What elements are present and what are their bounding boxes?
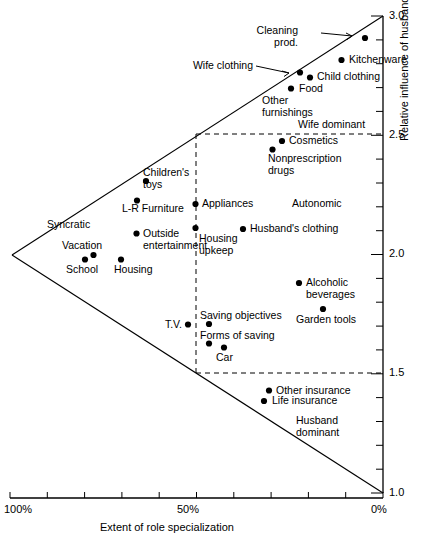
y-tick-label-1-5: 1.5 [389,366,404,378]
point-label-school: School [66,264,98,276]
point-label-saving-objectives: Saving objectives [200,310,282,322]
point-label-childrens-toys: Children's toys [143,167,189,190]
point-label-cleaning-prod: Cleaning prod. [228,25,298,48]
x-axis [10,492,383,498]
data-point [338,57,344,63]
region-label-husband-dominant: Husband dominant [296,415,339,438]
point-label-cosmetics: Cosmetics [289,135,338,147]
point-label-food: Food [299,83,323,95]
data-point [261,398,267,404]
data-point [82,256,88,262]
y-tick-label-1-0: 1.0 [389,486,404,498]
data-point [296,280,302,286]
point-label-husbands-clothing: Husband's clothing [250,223,338,235]
data-point [240,226,246,232]
data-point [266,387,272,393]
data-point [279,138,285,144]
point-label-garden-tools: Garden tools [296,314,356,326]
point-label-housing: Housing [114,264,153,276]
point-label-tv: T.V. [140,319,182,331]
point-label-nonprescription-drugs: Nonprescription drugs [268,153,342,176]
data-point [118,256,124,262]
chart-container: Cleaning prod. Kitchenware Wife clothing… [0,0,432,539]
data-points [82,35,368,404]
region-label-autonomic: Autonomic [292,198,342,210]
data-point [320,306,326,312]
data-point [221,344,227,350]
region-label-wife-dominant: Wife dominant [298,119,365,131]
point-label-wife-clothing: Wife clothing [168,60,253,72]
point-label-vacation: Vacation [62,240,102,252]
x-axis-title: Extent of role specialization [100,521,300,533]
data-point [362,35,368,41]
data-point [133,230,139,236]
data-point [90,252,96,258]
point-label-life-insurance: Life insurance [272,395,337,407]
data-point [307,74,313,80]
point-label-forms-of-saving: Forms of saving [200,330,275,342]
y-tick-label-2-0: 2.0 [389,247,404,259]
data-point [297,69,303,75]
point-label-other-furnishings: Other furnishings [262,95,313,118]
data-point [206,321,212,327]
data-point [192,201,198,207]
y-axis-title: Relative influence of husbands and wives [398,0,410,150]
point-label-appliances: Appliances [202,198,253,210]
point-label-lr-furniture: L-R Furniture [122,203,184,215]
x-tick-label-0: 0% [371,503,387,515]
y-axis-title-text: Relative influence of husbands and wives [398,0,410,150]
y-axis [371,16,383,493]
x-tick-label-50: 50% [177,503,217,515]
x-tick-label-100: 100% [4,503,32,515]
point-label-alcoholic-beverages: Alcoholic beverages [306,277,355,300]
point-label-car: Car [216,352,233,364]
data-point [185,321,191,327]
data-point [288,85,294,91]
point-label-outside-entertainment: Outside entertainment [143,228,207,251]
point-label-housing-upkeep: Housing upkeep [199,233,238,256]
point-label-child-clothing: Child clothing [317,71,380,83]
region-label-syncratic: Syncratic [47,219,90,231]
